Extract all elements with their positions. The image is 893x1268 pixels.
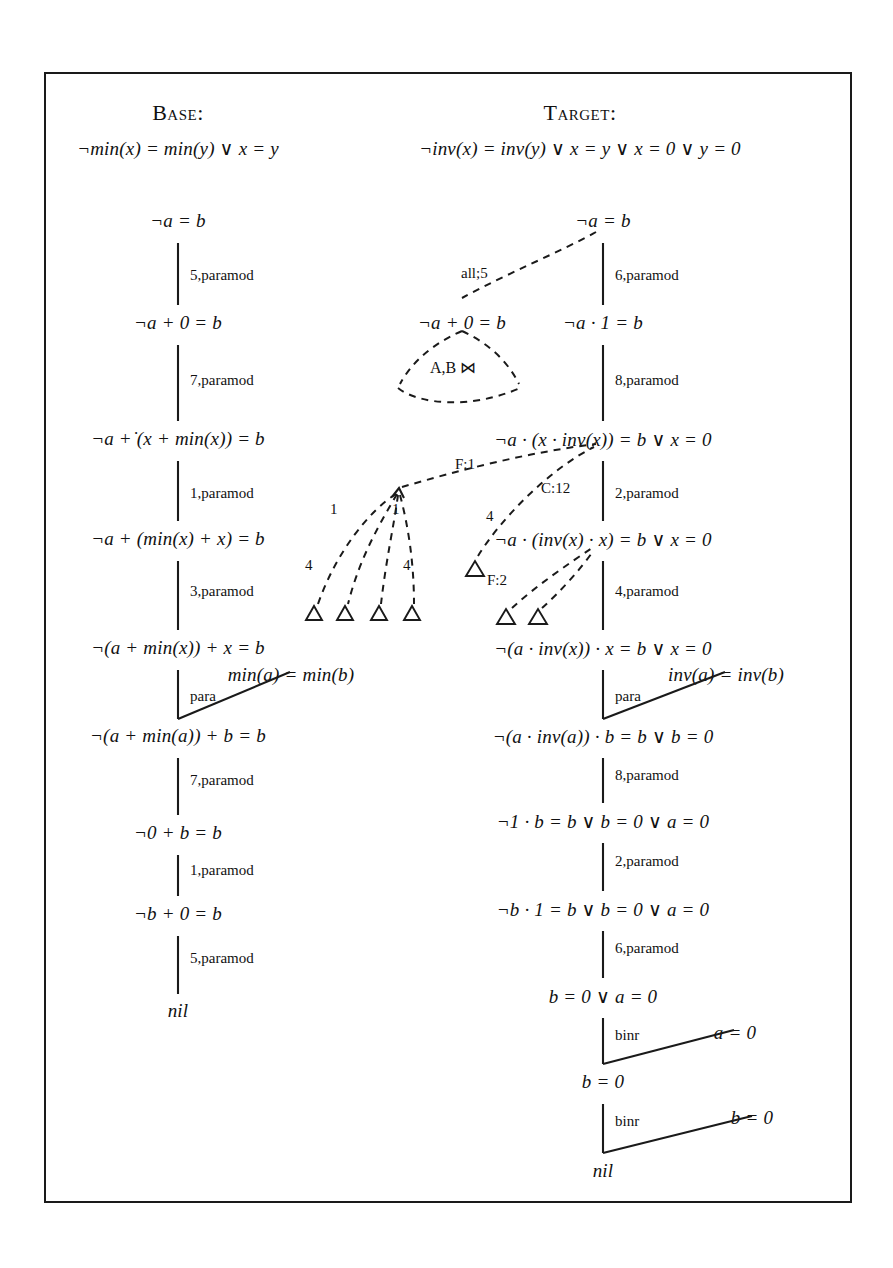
target-step-0-justification: 6,paramod — [615, 267, 679, 284]
target-step-9-formula: b = 0 — [582, 1071, 624, 1093]
target-step-8-formula: b = 0 ∨ a = 0 — [549, 985, 658, 1008]
target-step-8-justification: binr — [615, 1027, 639, 1044]
mapping-label-f1: F:1 — [455, 456, 475, 473]
branch-label-1b: 1 — [392, 501, 400, 518]
target-step-9-justification: binr — [615, 1113, 639, 1130]
figure-page: Base: Target: ¬min(x) = min(y) ∨ x = y ¬… — [0, 0, 893, 1268]
target-step-2-formula: ¬a · (x · inv(x)) = b ∨ x = 0 — [494, 428, 712, 451]
analogy-fan-label: A,B ⋈ — [430, 358, 476, 377]
target-side-premise-0-formula: inv(a) = inv(b) — [668, 664, 784, 686]
target-step-7-justification: 6,paramod — [615, 940, 679, 957]
mapping-label-f2: F:2 — [487, 572, 507, 589]
target-step-5-justification: 8,paramod — [615, 767, 679, 784]
base-step-0-justification: 5,paramod — [190, 267, 254, 284]
base-step-1-formula: ¬a + 0 = b — [134, 312, 222, 334]
target-step-7-formula: ¬b · 1 = b ∨ b = 0 ∨ a = 0 — [497, 898, 710, 921]
target-step-10-formula: nil — [593, 1160, 614, 1182]
column-header-target: Target: — [543, 100, 616, 126]
target-step-6-justification: 2,paramod — [615, 853, 679, 870]
base-step-3-formula: ¬a + (min(x) + x) = b — [91, 528, 265, 550]
target-step-1-formula: ¬a · 1 = b — [563, 312, 643, 334]
axiom-base: ¬min(x) = min(y) ∨ x = y — [77, 137, 279, 160]
base-step-4-formula: ¬(a + min(x)) + x = b — [91, 637, 265, 659]
base-step-3-justification: 3,paramod — [190, 583, 254, 600]
base-step-5-formula: ¬(a + min(a)) + b = b — [90, 725, 266, 747]
target-step-3-justification: 4,paramod — [615, 583, 679, 600]
axiom-target: ¬inv(x) = inv(y) ∨ x = y ∨ x = 0 ∨ y = 0 — [419, 137, 741, 160]
mapping-label-c12: C:12 — [541, 480, 570, 497]
analogy-link-label: all;5 — [461, 265, 488, 282]
base-step-2-justification: 1,paramod — [190, 485, 254, 502]
target-step-5-formula: ¬(a · inv(a)) · b = b ∨ b = 0 — [493, 725, 714, 748]
base-step-7-formula: ¬b + 0 = b — [134, 903, 222, 925]
target-side-premise-2-formula: b = 0 — [731, 1107, 773, 1129]
analogy-node-formula: ¬a + 0 = b — [418, 312, 506, 334]
branch-label-4c: 4 — [486, 508, 494, 525]
target-step-3-formula: ¬a · (inv(x) · x) = b ∨ x = 0 — [494, 528, 712, 551]
column-header-base: Base: — [152, 100, 204, 126]
base-step-6-justification: 1,paramod — [190, 862, 254, 879]
base-step-0-formula: ¬a = b — [150, 210, 205, 232]
branch-label-4a: 4 — [305, 557, 313, 574]
target-side-premise-1-formula: a = 0 — [714, 1022, 756, 1044]
base-side-premise-formula: min(a) = min(b) — [228, 664, 355, 686]
branch-label-4b: 4 — [403, 557, 411, 574]
target-step-0-formula: ¬a = b — [575, 210, 630, 232]
target-step-6-formula: ¬1 · b = b ∨ b = 0 ∨ a = 0 — [497, 810, 710, 833]
base-step-8-formula: nil — [168, 1000, 189, 1022]
base-step-6-formula: ¬0 + b = b — [134, 822, 222, 844]
base-step-1-justification: 7,paramod — [190, 372, 254, 389]
branch-label-1a: 1 — [330, 501, 338, 518]
target-step-2-justification: 2,paramod — [615, 485, 679, 502]
target-step-4-justification: para — [615, 688, 641, 705]
base-step-7-justification: 5,paramod — [190, 950, 254, 967]
base-step-5-justification: 7,paramod — [190, 772, 254, 789]
base-step-2-formula: ¬a +̇ (x + min(x)) = b — [91, 428, 265, 450]
target-step-1-justification: 8,paramod — [615, 372, 679, 389]
base-step-4-justification: para — [190, 688, 216, 705]
target-step-4-formula: ¬(a · inv(x)) · x = b ∨ x = 0 — [494, 637, 712, 660]
